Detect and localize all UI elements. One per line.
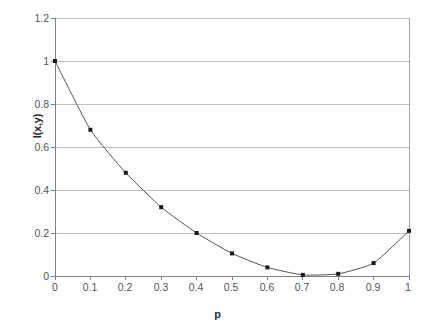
x-tick-label-text: 0.1 [70, 281, 110, 293]
x-tick-label-text: 0.7 [282, 281, 322, 293]
x-tick-marks [55, 276, 409, 280]
data-point [159, 205, 163, 209]
x-tick-label: 0.4 [176, 281, 216, 294]
y-tick-label: 1.2 [16, 12, 49, 24]
x-tick-label-text: 1 [388, 281, 428, 293]
y-tick-label-text: 0.6 [16, 141, 49, 153]
x-tick-label-text: 0.8 [317, 281, 357, 293]
x-tick-label: 0.1 [70, 281, 110, 294]
series-line [55, 61, 409, 275]
x-tick-label-text: 0.3 [141, 281, 181, 293]
data-point [230, 251, 234, 255]
x-tick-label-text: 0 [35, 281, 75, 293]
x-tick-label: 0.5 [211, 281, 251, 294]
data-point [88, 128, 92, 132]
y-tick-label-text: 1 [16, 55, 49, 67]
data-point [407, 229, 411, 233]
data-point [301, 273, 305, 277]
data-point [372, 261, 376, 265]
x-tick-label: 0.6 [247, 281, 287, 294]
x-tick-label-text: 0.2 [105, 281, 145, 293]
x-tick-label-text: 0.4 [176, 281, 216, 293]
x-tick-label: 1 [388, 281, 428, 294]
y-tick-marks [51, 18, 55, 276]
x-tick-label-text: 0.9 [353, 281, 393, 293]
y-tick-label-text: 1.2 [16, 12, 49, 24]
y-tick-label: 0.8 [16, 98, 49, 110]
x-tick-label: 0 [35, 281, 75, 294]
data-point [124, 171, 128, 175]
gridlines [55, 18, 409, 276]
series-markers [53, 59, 411, 277]
x-tick-label: 0.3 [141, 281, 181, 294]
x-tick-label: 0.8 [317, 281, 357, 294]
x-tick-label: 0.7 [282, 281, 322, 294]
y-tick-label: 0.6 [16, 141, 49, 153]
data-point [336, 272, 340, 276]
data-point [53, 59, 57, 63]
x-axis-title: p [0, 308, 435, 320]
data-point [265, 265, 269, 269]
y-tick-label-text: 0.2 [16, 227, 49, 239]
y-tick-label: 0.4 [16, 184, 49, 196]
chart-container: I(x,y) 1.2 1 0.8 0.6 0.4 0.2 0 0 0.1 0.2… [0, 0, 435, 333]
y-tick-label: 0.2 [16, 227, 49, 239]
y-tick-label-text: 0.8 [16, 98, 49, 110]
y-tick-label-text: 0.4 [16, 184, 49, 196]
x-tick-label: 0.9 [353, 281, 393, 294]
x-tick-label-text: 0.5 [211, 281, 251, 293]
x-tick-label: 0.2 [105, 281, 145, 294]
x-tick-label-text: 0.6 [247, 281, 287, 293]
y-tick-label: 1 [16, 55, 49, 67]
data-point [195, 231, 199, 235]
